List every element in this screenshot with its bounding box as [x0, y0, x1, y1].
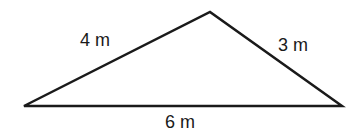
- side-label-base: 6 m: [165, 113, 195, 131]
- triangle-diagram: 4 m 3 m 6 m: [0, 0, 355, 138]
- triangle-shape: [24, 12, 342, 106]
- side-label-left: 4 m: [80, 31, 110, 49]
- side-label-right: 3 m: [278, 36, 308, 54]
